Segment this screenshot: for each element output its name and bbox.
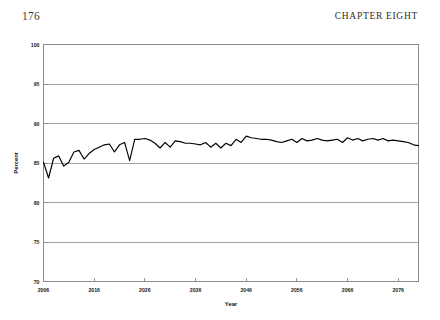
y-axis: 707580859095100 [31,42,48,285]
page-number: 176 [22,10,40,22]
y-tick-label: 75 [34,239,40,245]
y-axis-title: Percent [13,152,19,173]
x-axis-title: Year [225,301,238,307]
y-tick-label: 85 [34,160,40,166]
y-tick-label: 90 [34,121,40,127]
x-tick-label: 2036 [190,287,202,293]
x-tick-label: 2056 [291,287,303,293]
x-axis: 20062016202620362046205620662076 [38,278,404,293]
y-tick-label: 100 [31,42,40,48]
chart-figure: 707580859095100 200620162026203620462056… [0,28,440,320]
page-header: 176 CHAPTER EIGHT [0,0,440,28]
x-tick-label: 2046 [240,287,252,293]
running-head: CHAPTER EIGHT [335,11,418,21]
y-tick-label: 95 [34,81,40,87]
x-tick-label: 2066 [342,287,354,293]
y-tick-label: 70 [34,279,40,285]
x-tick-label: 2006 [38,287,50,293]
y-tick-label: 80 [34,200,40,206]
x-tick-label: 2026 [139,287,151,293]
x-tick-label: 2016 [88,287,100,293]
x-tick-label: 2076 [392,287,404,293]
line-chart: 707580859095100 200620162026203620462056… [0,28,440,320]
chart-gridlines [44,45,419,282]
data-series-percent [44,136,419,178]
